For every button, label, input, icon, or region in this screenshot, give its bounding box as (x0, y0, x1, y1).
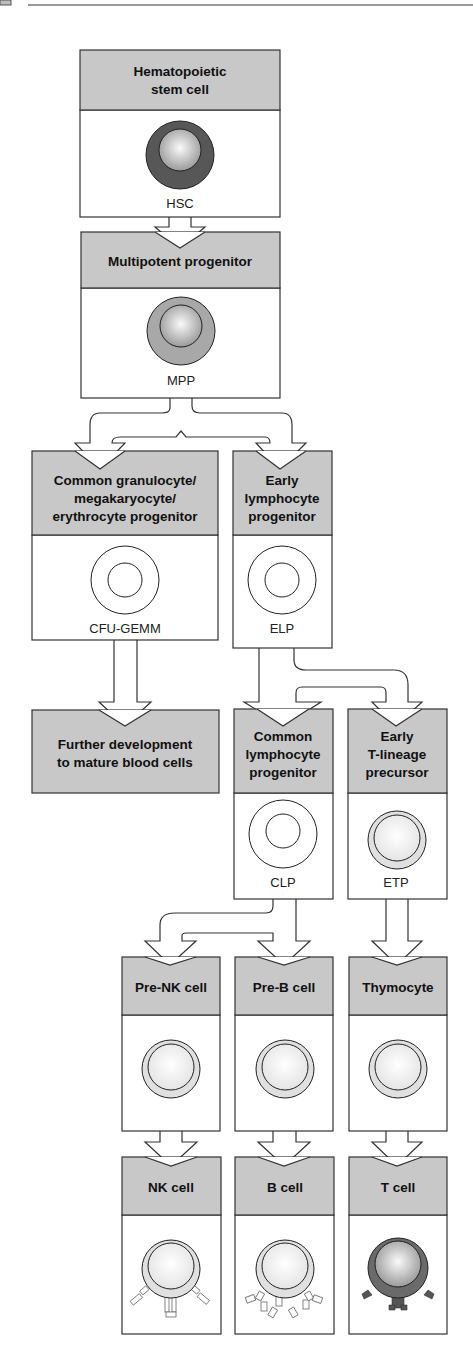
elp-title-line2: lymphocyte (244, 491, 320, 506)
node-further-development: Further development to mature blood cell… (32, 710, 219, 793)
mpp-title: Multipotent progenitor (108, 254, 253, 269)
elp-label: ELP (270, 621, 295, 636)
arrow-etp-to-thymocyte (372, 899, 422, 965)
etp-title-line2: T-lineage (368, 747, 427, 762)
cfu-title-line2: megakaryocyte/ (74, 491, 176, 506)
corner-mark (0, 0, 11, 5)
hsc-cell-icon (146, 121, 214, 189)
node-mpp: Multipotent progenitor MPP (81, 232, 280, 398)
node-thymocyte: Thymocyte (349, 957, 447, 1131)
clp-title-line1: Common (254, 729, 313, 744)
clp-label: CLP (270, 875, 295, 890)
node-b-cell: B cell (235, 1157, 334, 1334)
etp-title-line1: Early (380, 729, 414, 744)
thymocyte-cell-icon (369, 1040, 427, 1098)
t-title: T cell (381, 1180, 416, 1195)
etp-label: ETP (383, 875, 408, 890)
arrow-clp-to-prenk-preb (145, 899, 310, 965)
mpp-label: MPP (167, 373, 195, 388)
cfu-title-line1: Common granulocyte/ (54, 473, 197, 488)
node-clp: Common lymphocyte progenitor CLP (234, 709, 333, 899)
node-hsc: Hematopoietic stem cell HSC (80, 50, 280, 217)
mpp-cell-icon (147, 297, 215, 365)
cfu-title-line3: erythrocyte progenitor (53, 509, 199, 524)
lineage-diagram: Hematopoietic stem cell HSC Multipotent … (0, 0, 473, 1347)
further-title-line2: to mature blood cells (57, 755, 193, 770)
hsc-title-line2: stem cell (151, 82, 209, 97)
elp-title-line3: progenitor (248, 509, 316, 524)
etp-cell-icon (368, 811, 426, 869)
b-title: B cell (267, 1180, 303, 1195)
clp-cell-icon (249, 800, 317, 868)
further-title-line1: Further development (58, 737, 193, 752)
clp-title-line3: progenitor (249, 765, 317, 780)
elp-cell-icon (248, 546, 316, 614)
clp-title-line2: lymphocyte (245, 747, 321, 762)
node-pre-nk: Pre-NK cell (122, 957, 220, 1131)
node-nk-cell: NK cell (122, 1157, 221, 1334)
thymocyte-title: Thymocyte (362, 980, 434, 995)
cfu-gemm-label: CFU-GEMM (89, 621, 161, 636)
pre-nk-title: Pre-NK cell (135, 980, 207, 995)
hsc-label: HSC (166, 196, 193, 211)
node-etp: Early T-lineage precursor ETP (348, 709, 447, 899)
node-t-cell: T cell (349, 1157, 447, 1334)
pre-b-cell-icon (256, 1040, 314, 1098)
elp-title-line1: Early (265, 473, 299, 488)
hsc-title-line1: Hematopoietic (133, 64, 227, 79)
pre-nk-cell-icon (142, 1040, 200, 1098)
cfu-gemm-cell-icon (91, 546, 159, 614)
nk-title: NK cell (148, 1180, 194, 1195)
node-elp: Early lymphocyte progenitor ELP (233, 451, 332, 648)
pre-b-title: Pre-B cell (253, 980, 315, 995)
etp-title-line3: precursor (365, 765, 429, 780)
node-cfu-gemm: Common granulocyte/ megakaryocyte/ eryth… (32, 451, 218, 640)
node-pre-b: Pre-B cell (235, 957, 333, 1131)
